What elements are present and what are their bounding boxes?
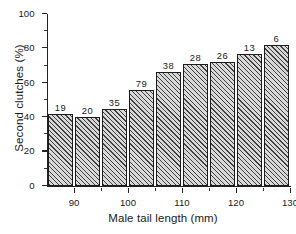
x-tick-major bbox=[236, 188, 237, 194]
x-tick-label: 110 bbox=[174, 197, 189, 208]
y-tick-minor bbox=[44, 30, 47, 31]
x-axis-ticks: 90100110120130 bbox=[47, 188, 291, 212]
y-tick-major: 20 bbox=[42, 150, 48, 151]
x-axis-title: Male tail length (mm) bbox=[30, 212, 296, 224]
x-tick-minor bbox=[101, 188, 102, 191]
bar: 20 bbox=[75, 117, 100, 186]
bar-value-label: 19 bbox=[55, 102, 67, 113]
y-tick-label: 20 bbox=[24, 145, 35, 156]
x-tick-minor bbox=[263, 188, 264, 191]
y-tick-minor bbox=[44, 65, 47, 66]
bar-value-label: 13 bbox=[244, 42, 256, 53]
bar-value-label: 35 bbox=[109, 97, 121, 108]
y-tick-major: 40 bbox=[42, 116, 48, 117]
y-tick-label: 60 bbox=[24, 76, 35, 87]
bar: 38 bbox=[156, 72, 181, 186]
x-tick-label: 120 bbox=[228, 197, 244, 208]
x-tick-major bbox=[182, 188, 183, 194]
x-tick-label: 130 bbox=[282, 197, 296, 208]
x-tick-label: 90 bbox=[69, 197, 80, 208]
y-tick-label: 80 bbox=[24, 42, 35, 53]
bar-value-label: 26 bbox=[217, 50, 229, 61]
y-tick-major: 0 bbox=[42, 185, 48, 186]
x-tick-minor bbox=[155, 188, 156, 191]
bar: 35 bbox=[102, 109, 127, 186]
bar: 13 bbox=[237, 54, 262, 186]
y-tick-minor bbox=[44, 133, 47, 134]
chart-figure: Second clutches (%) 020406080100 1920357… bbox=[0, 0, 296, 234]
bar: 79 bbox=[129, 90, 154, 186]
plot-area: 020406080100 19203579382826136 bbox=[47, 14, 290, 186]
y-tick-major: 80 bbox=[42, 47, 48, 48]
y-tick-minor bbox=[44, 99, 47, 100]
x-tick-major bbox=[290, 188, 291, 194]
y-tick-minor bbox=[44, 168, 47, 169]
x-tick-minor bbox=[209, 188, 210, 191]
y-tick-label: 40 bbox=[24, 110, 35, 121]
bar: 26 bbox=[210, 62, 235, 186]
x-tick-major bbox=[128, 188, 129, 194]
y-tick-label: 0 bbox=[29, 179, 34, 190]
bar-value-label: 28 bbox=[190, 52, 202, 63]
bar-value-label: 20 bbox=[82, 105, 94, 116]
y-tick-major: 100 bbox=[42, 13, 48, 14]
x-tick-label: 100 bbox=[120, 197, 136, 208]
y-tick-major: 60 bbox=[42, 82, 48, 83]
bar: 6 bbox=[264, 45, 289, 186]
y-axis-title: Second clutches (%) bbox=[13, 13, 25, 183]
bar-value-label: 6 bbox=[274, 33, 280, 44]
y-tick-label: 100 bbox=[18, 7, 34, 18]
bar-value-label: 38 bbox=[163, 60, 175, 71]
bar: 28 bbox=[183, 64, 208, 186]
bar: 19 bbox=[48, 114, 73, 186]
x-tick-major bbox=[74, 188, 75, 194]
bar-value-label: 79 bbox=[136, 78, 148, 89]
